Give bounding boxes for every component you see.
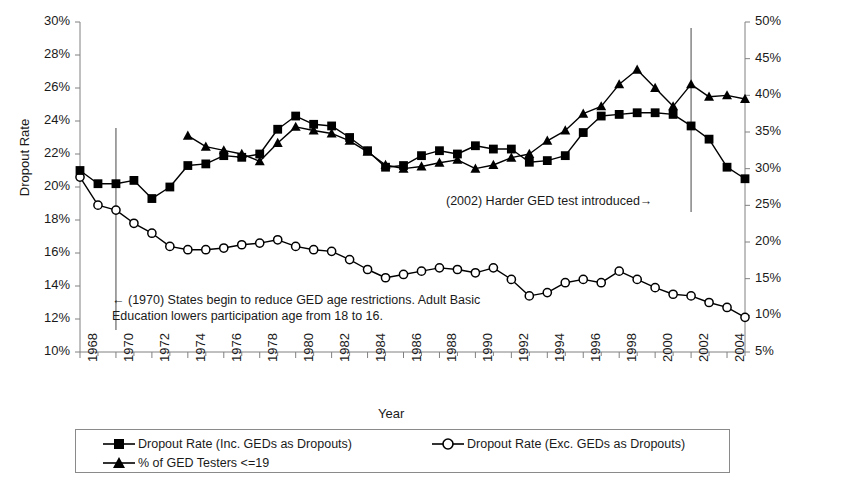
y-axis-left-tick-label: 24% — [18, 112, 70, 127]
data-point-marker — [507, 145, 516, 154]
data-point-marker — [309, 120, 318, 129]
data-point-marker — [381, 163, 390, 172]
data-point-marker — [471, 269, 479, 277]
x-axis-tick-label: 1990 — [480, 333, 495, 362]
data-point-marker — [165, 183, 174, 192]
data-point-marker — [543, 156, 552, 165]
x-axis-tick-label: 1982 — [337, 333, 352, 362]
legend-label-ged-testers: % of GED Testers <=19 — [138, 456, 269, 470]
y-axis-right-tick-label: 30% — [755, 160, 807, 175]
data-point-marker — [741, 313, 749, 321]
data-point-marker — [76, 166, 85, 175]
data-point-marker — [220, 244, 228, 252]
data-point-marker — [597, 112, 606, 121]
data-point-marker — [525, 158, 534, 167]
x-axis-tick-label: 1994 — [552, 333, 567, 362]
data-point-marker — [741, 174, 750, 183]
data-point-marker — [578, 108, 588, 117]
data-point-marker — [686, 79, 696, 88]
data-point-marker — [381, 274, 389, 282]
x-axis-tick-label: 2000 — [660, 333, 675, 362]
data-point-marker — [687, 292, 695, 300]
data-point-marker — [579, 275, 587, 283]
data-point-marker — [183, 161, 192, 170]
series-square — [76, 108, 750, 203]
data-point-marker — [669, 290, 677, 298]
data-point-marker — [237, 153, 246, 162]
legend-circle-marker-icon — [431, 437, 465, 451]
data-point-marker — [615, 267, 623, 275]
data-point-marker — [112, 206, 120, 214]
data-point-marker — [292, 242, 300, 250]
data-point-marker — [255, 150, 264, 159]
data-point-marker — [687, 122, 696, 131]
data-point-marker — [435, 146, 444, 155]
data-point-marker — [525, 292, 533, 300]
data-point-marker — [453, 265, 461, 273]
data-point-marker — [651, 284, 659, 292]
y-axis-right-tick-label: 25% — [755, 196, 807, 211]
data-point-marker — [201, 141, 211, 150]
data-point-marker — [489, 264, 497, 272]
legend-item-dropout-exc-geds[interactable]: Dropout Rate (Exc. GEDs as Dropouts) — [431, 435, 685, 453]
y-axis-right-tick-label: 5% — [755, 343, 807, 358]
data-point-marker — [615, 110, 624, 119]
y-axis-left-tick-label: 18% — [18, 211, 70, 226]
annotation-1970: ← (1970) States begin to reduce GED age … — [112, 292, 480, 324]
data-point-marker — [435, 264, 443, 272]
data-point-marker — [166, 242, 174, 250]
y-axis-right-tick-label: 40% — [755, 86, 807, 101]
data-point-marker — [273, 125, 282, 134]
x-axis-tick-label: 1970 — [121, 333, 136, 362]
data-point-marker — [633, 108, 642, 117]
data-point-marker — [201, 160, 210, 169]
data-point-marker — [148, 229, 156, 237]
data-point-marker — [524, 149, 534, 158]
x-axis-tick-label: 1996 — [588, 333, 603, 362]
data-point-marker — [147, 194, 156, 203]
data-point-marker — [94, 201, 102, 209]
y-axis-left-tick-label: 14% — [18, 277, 70, 292]
data-point-marker — [327, 122, 336, 131]
data-point-marker — [705, 135, 714, 144]
y-axis-right-tick-label: 10% — [755, 306, 807, 321]
data-point-marker — [291, 112, 300, 121]
data-point-marker — [488, 160, 498, 169]
y-axis-left-tick-label: 22% — [18, 145, 70, 160]
dropout-rate-line-chart — [0, 0, 856, 477]
data-point-marker — [417, 267, 425, 275]
data-point-marker — [256, 239, 264, 247]
data-point-marker — [632, 64, 642, 73]
data-point-marker — [238, 241, 246, 249]
x-axis-tick-label: 1984 — [373, 333, 388, 362]
y-axis-left-tick-label: 10% — [18, 343, 70, 358]
data-point-marker — [453, 150, 462, 159]
data-point-marker — [561, 151, 570, 160]
x-axis-tick-label: 1976 — [229, 333, 244, 362]
data-point-marker — [94, 179, 103, 188]
y-axis-left-tick-label: 28% — [18, 46, 70, 61]
legend-item-ged-testers[interactable]: % of GED Testers <=19 — [102, 454, 269, 472]
legend-square-marker-icon — [102, 437, 136, 451]
data-point-marker — [399, 161, 408, 170]
x-axis-tick-label: 1972 — [157, 333, 172, 362]
legend-item-dropout-inc-geds[interactable]: Dropout Rate (Inc. GEDs as Dropouts) — [102, 435, 352, 453]
data-point-marker — [184, 246, 192, 254]
x-axis-tick-label: 1968 — [85, 333, 100, 362]
y-axis-left-tick-label: 26% — [18, 79, 70, 94]
x-axis-tick-label: 1978 — [265, 333, 280, 362]
y-axis-left-tick-label: 30% — [18, 13, 70, 28]
data-point-marker — [345, 256, 353, 264]
data-point-marker — [723, 303, 731, 311]
x-axis-tick-label: 2002 — [696, 333, 711, 362]
data-point-marker — [219, 151, 228, 160]
x-axis-tick-label: 1988 — [444, 333, 459, 362]
data-point-marker — [345, 133, 354, 142]
data-point-marker — [471, 141, 480, 150]
data-point-marker — [542, 136, 552, 145]
data-point-marker — [651, 108, 660, 117]
legend-label-dropout-inc-geds: Dropout Rate (Inc. GEDs as Dropouts) — [138, 437, 352, 451]
x-axis-tick-label: 1974 — [193, 333, 208, 362]
x-axis-tick-label: 1998 — [624, 333, 639, 362]
data-point-marker — [328, 247, 336, 255]
